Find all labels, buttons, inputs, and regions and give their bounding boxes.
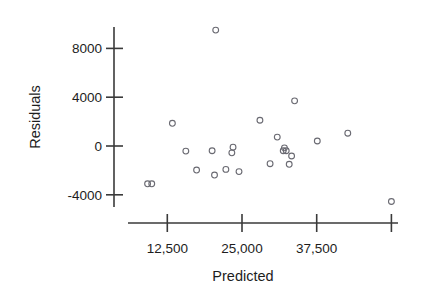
x-tick-label-37500: 37,500 — [296, 241, 337, 256]
data-point — [209, 148, 215, 154]
data-point — [236, 169, 242, 175]
data-point — [194, 167, 200, 173]
residual-scatter-plot: -4000040008000 Residuals 12,50025,00037,… — [0, 0, 423, 298]
data-point — [212, 172, 218, 178]
x-tick-label-12500: 12,500 — [147, 241, 188, 256]
data-point — [267, 161, 273, 167]
y-axis-tick-labels: -4000040008000 — [67, 41, 102, 202]
data-point — [257, 117, 263, 123]
data-point — [292, 98, 298, 104]
x-axis-tick-labels: 12,50025,00037,500 — [147, 241, 338, 256]
data-point — [223, 167, 229, 173]
data-point — [149, 181, 155, 187]
data-point — [274, 134, 280, 140]
y-tick-label--4000: -4000 — [67, 188, 102, 203]
data-point — [345, 130, 351, 136]
data-point — [183, 148, 189, 154]
x-tick-label-25000: 25,000 — [221, 241, 262, 256]
y-tick-label-4000: 4000 — [72, 90, 102, 105]
data-point — [213, 27, 219, 33]
data-point-group — [145, 27, 395, 204]
x-axis-title: Predicted — [212, 268, 273, 284]
y-tick-label-0: 0 — [94, 139, 102, 154]
y-tick-label-8000: 8000 — [72, 41, 102, 56]
data-point — [286, 161, 292, 167]
y-axis-title: Residuals — [27, 85, 43, 149]
data-point — [289, 153, 295, 159]
data-point — [229, 150, 235, 156]
data-point — [314, 138, 320, 144]
x-axis: 12,50025,00037,500 Predicted — [128, 214, 398, 284]
y-axis: -4000040008000 Residuals — [27, 27, 123, 207]
data-point — [230, 144, 236, 150]
chart-canvas: -4000040008000 Residuals 12,50025,00037,… — [0, 0, 423, 298]
data-point — [169, 120, 175, 126]
data-point — [389, 199, 395, 205]
